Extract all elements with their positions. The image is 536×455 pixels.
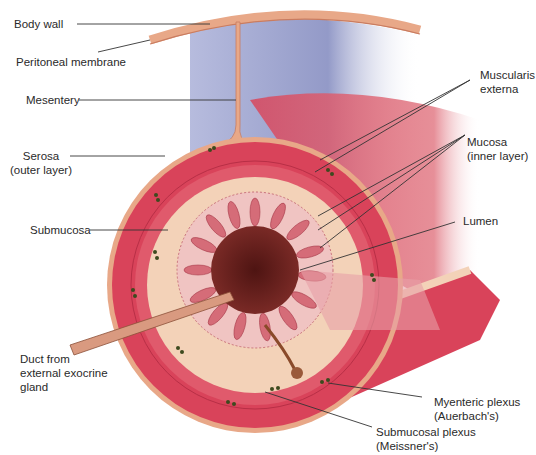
label-peritoneal-membrane: Peritoneal membrane (16, 55, 126, 69)
label-myenteric-line1: Myenteric plexus (434, 395, 520, 409)
label-mucosa-line1: Mucosa (467, 135, 528, 149)
label-muscularis-line2: externa (480, 82, 535, 96)
label-body-wall: Body wall (14, 17, 63, 31)
label-duct-line3: gland (20, 380, 108, 394)
label-lumen: Lumen (463, 214, 498, 228)
label-serosa-line2: (outer layer) (10, 163, 72, 177)
label-myenteric-plexus: Myenteric plexus (Auerbach's) (434, 395, 520, 423)
label-mucosa: Mucosa (inner layer) (467, 135, 528, 163)
label-mesentery: Mesentery (26, 93, 80, 107)
label-submucosal-plexus: Submucosal plexus (Meissner's) (376, 425, 476, 453)
label-muscularis-line1: Muscularis (480, 68, 535, 82)
label-myenteric-line2: (Auerbach's) (434, 409, 520, 423)
label-serosa: Serosa (outer layer) (10, 149, 72, 177)
label-duct: Duct from external exocrine gland (20, 352, 108, 394)
label-mucosa-line2: (inner layer) (467, 149, 528, 163)
label-serosa-line1: Serosa (10, 149, 72, 163)
label-duct-line2: external exocrine (20, 366, 108, 380)
label-submucosal-line1: Submucosal plexus (376, 425, 476, 439)
label-muscularis-externa: Muscularis externa (480, 68, 535, 96)
label-duct-line1: Duct from (20, 352, 108, 366)
label-submucosal-line2: (Meissner's) (376, 439, 476, 453)
label-submucosa: Submucosa (30, 223, 91, 237)
